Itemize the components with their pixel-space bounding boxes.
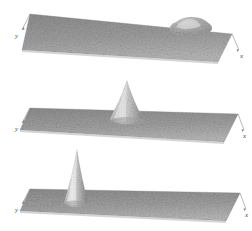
surface-panel-3: y x: [0, 151, 252, 231]
y-axis-label: y: [14, 32, 19, 40]
x-axis-label: x: [242, 132, 247, 140]
surface-panel-2: y x: [0, 76, 252, 156]
surface-mesh-3: [20, 189, 240, 223]
peak-marker-3: [63, 149, 89, 208]
surface-plot-figure: y x: [0, 0, 252, 231]
surface-panel-1-canvas: y x: [0, 0, 252, 80]
surface-panel-2-canvas: y x: [0, 76, 252, 156]
y-axis-label: y: [14, 206, 19, 214]
peak-marker-2: [110, 80, 144, 125]
y-axis-label: y: [14, 125, 19, 133]
surface-panel-3-canvas: y x: [0, 151, 252, 231]
x-axis-label: x: [244, 211, 249, 219]
x-axis-label: x: [239, 52, 244, 60]
peak-marker-1: [170, 17, 212, 37]
surface-panel-1: y x: [0, 0, 252, 80]
